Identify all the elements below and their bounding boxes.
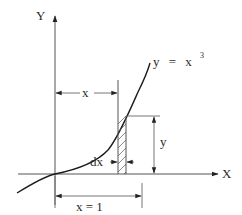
integral-diagram: Y X y = x 3 x y [0,0,242,215]
curve-equation-label: y = x [153,54,192,69]
dx-label: dx [90,154,104,169]
y-dimension: y [126,116,167,173]
curve-exponent: 3 [200,51,204,60]
y-axis-label: Y [36,8,46,23]
x-dimension-label: x [82,85,89,100]
x-equals-one-dimension: x = 1 [55,176,142,214]
x-equals-one-label: x = 1 [76,199,103,214]
x-axis-label: X [222,166,232,181]
x-dimension: x [56,85,117,100]
y-dimension-label: y [160,134,167,149]
dx-dimension: dx [90,154,134,169]
dx-strip [112,80,132,186]
x-axis: X [18,166,232,181]
